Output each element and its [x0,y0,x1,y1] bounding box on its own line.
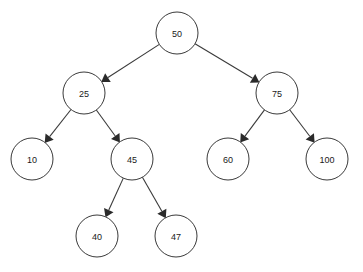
tree-edge [45,109,71,142]
tree-edge [240,110,264,143]
tree-node-25[interactable]: 25 [63,72,105,114]
tree-edge [96,110,120,142]
tree-edge [104,178,123,217]
node-circle[interactable] [306,138,348,180]
node-circle[interactable] [76,215,118,257]
node-circle[interactable] [111,138,153,180]
arrow-head-icon [306,133,315,143]
tree-node-50[interactable]: 50 [156,12,198,54]
arrow-head-icon [240,133,249,143]
tree-edge [142,177,166,218]
edge-line [290,110,310,137]
arrow-head-icon [157,209,166,219]
edge-line [109,178,124,210]
node-layer: 5025751045601004047 [11,12,348,257]
node-circle[interactable] [155,215,197,257]
arrow-head-icon [111,133,120,143]
tree-node-47[interactable]: 47 [155,215,197,257]
arrow-head-icon [45,133,54,143]
tree-node-75[interactable]: 75 [256,72,298,114]
node-circle[interactable] [63,72,105,114]
tree-node-100[interactable]: 100 [306,138,348,180]
arrow-head-icon [101,73,111,82]
node-circle[interactable] [11,138,53,180]
edge-line [108,44,159,77]
tree-node-45[interactable]: 45 [111,138,153,180]
node-circle[interactable] [156,12,198,54]
node-circle[interactable] [256,72,298,114]
tree-node-60[interactable]: 60 [207,138,249,180]
binary-search-tree-diagram: 5025751045601004047 [0,0,363,272]
edge-line [195,44,253,79]
tree-edge [290,110,315,143]
edge-line [245,110,264,136]
edge-line [96,110,115,136]
arrow-head-icon [250,74,260,83]
node-circle[interactable] [207,138,249,180]
edge-layer [45,44,315,218]
tree-edge [195,44,259,83]
tree-node-40[interactable]: 40 [76,215,118,257]
edge-line [142,177,161,211]
edge-line [50,109,71,136]
tree-edge [101,44,159,82]
tree-node-10[interactable]: 10 [11,138,53,180]
